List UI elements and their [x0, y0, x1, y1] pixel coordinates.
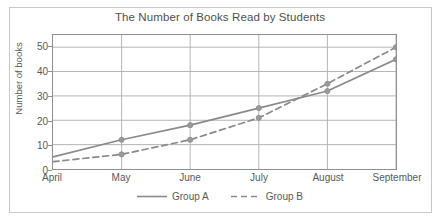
x-tick-label: August: [312, 172, 343, 183]
legend-key-dashed-line: [231, 192, 261, 201]
data-point: [256, 115, 261, 120]
data-point: [256, 106, 261, 111]
y-tick-mark: [48, 96, 52, 97]
data-point: [188, 123, 193, 128]
legend-key-solid-line: [137, 192, 167, 201]
series-markers: [119, 45, 396, 157]
data-point: [188, 137, 193, 142]
legend-item-group-b: Group B: [231, 191, 303, 202]
plot-svg: [53, 35, 396, 169]
legend-label-group-a: Group A: [172, 191, 209, 202]
data-point: [393, 45, 396, 50]
x-tick-label: September: [373, 172, 422, 183]
y-tick-label: 30: [22, 90, 48, 101]
x-tick-label: May: [112, 172, 131, 183]
y-tick-mark: [48, 46, 52, 47]
data-point: [393, 57, 396, 62]
plot-area: [52, 34, 397, 170]
y-tick-label: 20: [22, 115, 48, 126]
x-tick-label: June: [179, 172, 201, 183]
chart-legend: Group A Group B: [0, 191, 440, 202]
data-point: [119, 137, 124, 142]
y-tick-mark: [48, 145, 52, 146]
chart-figure: The Number of Books Read by Students Num…: [0, 0, 440, 222]
x-tick-label: July: [250, 172, 268, 183]
data-point: [325, 88, 330, 93]
legend-item-group-a: Group A: [137, 191, 209, 202]
series-line-group-a: [53, 59, 396, 156]
data-point: [119, 152, 124, 157]
y-tick-mark: [48, 121, 52, 122]
y-tick-mark: [48, 71, 52, 72]
legend-label-group-b: Group B: [266, 191, 303, 202]
data-point: [325, 81, 330, 86]
x-tick-label: April: [42, 172, 62, 183]
x-axis-tick-labels: AprilMayJuneJulyAugustSeptember: [52, 172, 397, 188]
y-tick-mark: [48, 170, 52, 171]
y-tick-label: 10: [22, 140, 48, 151]
chart-title: The Number of Books Read by Students: [0, 11, 440, 23]
y-axis-tick-labels: 01020304050: [22, 34, 48, 170]
grid-lines-vertical: [122, 35, 396, 169]
y-tick-label: 50: [22, 41, 48, 52]
grid-lines-horizontal: [53, 47, 396, 144]
y-tick-label: 40: [22, 66, 48, 77]
